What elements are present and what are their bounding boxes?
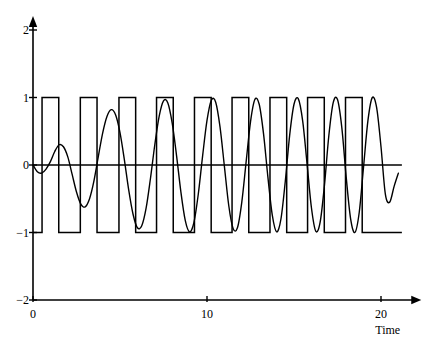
x-tick-label: 10 — [193, 308, 221, 320]
y-axis-arrowhead — [29, 16, 37, 27]
x-tick-label: 0 — [19, 308, 47, 320]
x-tick-label: 20 — [367, 308, 395, 320]
y-tick-label: 1 — [7, 92, 29, 104]
x-axis-arrowhead — [411, 296, 421, 304]
x-axis-title: Time — [375, 324, 400, 336]
y-tick-label: −2 — [7, 294, 29, 306]
y-tick-label: −1 — [7, 227, 29, 239]
y-tick-label: 2 — [7, 24, 29, 36]
y-tick-label: 0 — [7, 159, 29, 171]
x-axis-ticks — [33, 296, 381, 302]
chart-figure: −2−1012 01020 Time — [0, 0, 427, 345]
chart-plot-area — [0, 0, 427, 345]
